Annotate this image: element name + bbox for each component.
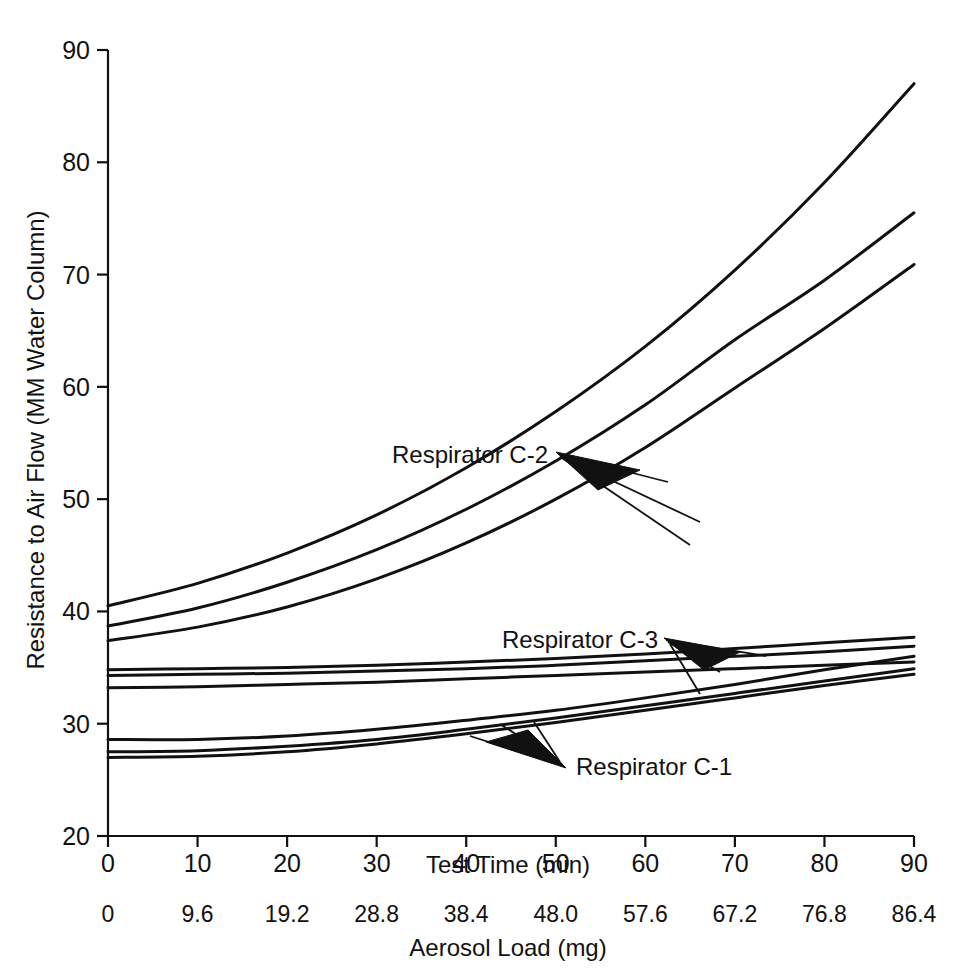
y-tick-label: 50 — [62, 485, 90, 513]
secondary-x-tick-label: 19.2 — [265, 901, 310, 927]
secondary-x-axis-title: Aerosol Load (mg) — [409, 934, 606, 961]
x-tick-label: 80 — [811, 849, 839, 877]
chart-background — [0, 0, 968, 976]
x-tick-label: 20 — [273, 849, 301, 877]
y-tick-label: 20 — [62, 822, 90, 850]
respirator-resistance-line-chart: 2030405060708090 00109.62019.23028.84038… — [0, 0, 968, 976]
secondary-x-tick-label: 0 — [102, 901, 115, 927]
secondary-x-tick-label: 67.2 — [713, 901, 758, 927]
secondary-x-tick-label: 86.4 — [892, 901, 937, 927]
y-axis-title: Resistance to Air Flow (MM Water Column) — [22, 210, 49, 669]
x-tick-label: 70 — [721, 849, 749, 877]
y-tick-label: 70 — [62, 261, 90, 289]
y-tick-label: 80 — [62, 148, 90, 176]
annotation-label-c1: Respirator C-1 — [576, 753, 732, 780]
secondary-x-tick-label: 57.6 — [623, 901, 668, 927]
x-tick-label: 0 — [101, 849, 115, 877]
x-tick-label: 30 — [363, 849, 391, 877]
secondary-x-tick-label: 76.8 — [802, 901, 847, 927]
secondary-x-tick-label: 28.8 — [354, 901, 399, 927]
x-axis-title: Test Time (min) — [426, 851, 590, 878]
y-tick-label: 60 — [62, 373, 90, 401]
x-tick-label: 60 — [631, 849, 659, 877]
y-tick-label: 40 — [62, 597, 90, 625]
secondary-x-tick-label: 48.0 — [533, 901, 578, 927]
secondary-x-tick-label: 9.6 — [182, 901, 214, 927]
x-tick-label: 90 — [900, 849, 928, 877]
x-tick-label: 10 — [184, 849, 212, 877]
annotation-label-c2: Respirator C-2 — [392, 441, 548, 468]
y-tick-label: 30 — [62, 710, 90, 738]
chart-figure: 2030405060708090 00109.62019.23028.84038… — [0, 0, 968, 976]
y-tick-label: 90 — [62, 36, 90, 64]
secondary-x-tick-label: 38.4 — [444, 901, 489, 927]
annotation-label-c3: Respirator C-3 — [502, 626, 658, 653]
